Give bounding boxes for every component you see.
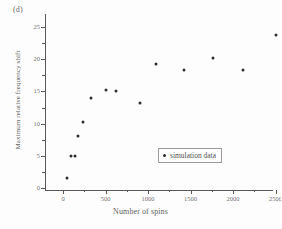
data-point xyxy=(138,101,141,104)
x-tick-minor xyxy=(254,190,255,192)
y-tick xyxy=(41,27,45,28)
legend-marker-icon xyxy=(163,154,166,157)
data-point xyxy=(242,69,245,72)
x-axis-title: Number of spins xyxy=(0,207,281,216)
data-point xyxy=(211,56,214,59)
plot-area: 051015202505001000150020002500 xyxy=(0,0,281,229)
x-tick-minor xyxy=(127,190,128,192)
x-tick-minor xyxy=(276,190,277,192)
y-tick xyxy=(41,156,45,157)
x-tick xyxy=(63,190,64,194)
x-tick-label: 2500 xyxy=(261,195,282,203)
data-point xyxy=(66,177,69,180)
y-tick-label: 25 xyxy=(16,23,40,30)
y-tick xyxy=(41,188,45,189)
y-tick-minor xyxy=(42,140,45,141)
x-tick-label: 500 xyxy=(91,195,121,203)
x-tick-minor xyxy=(84,190,85,192)
y-tick xyxy=(41,124,45,125)
y-axis-title: Maximum relative frequency shift xyxy=(14,30,22,170)
legend: simulation data xyxy=(158,148,222,163)
y-tick-minor xyxy=(42,43,45,44)
data-point xyxy=(81,121,84,124)
data-point xyxy=(69,154,72,157)
data-point xyxy=(90,96,93,99)
data-point xyxy=(274,33,277,36)
x-tick-label: 1000 xyxy=(133,195,163,203)
y-tick-label: 0 xyxy=(16,184,40,191)
data-point xyxy=(154,62,157,65)
x-axis-line xyxy=(45,190,273,191)
y-tick-minor xyxy=(42,75,45,76)
data-point xyxy=(77,135,80,138)
x-tick xyxy=(191,190,192,194)
y-tick xyxy=(41,59,45,60)
legend-label: simulation data xyxy=(170,151,216,160)
y-tick-minor xyxy=(42,108,45,109)
data-point xyxy=(114,89,117,92)
x-tick xyxy=(106,190,107,194)
data-point xyxy=(73,154,76,157)
figure-scatter-plot: (d) 051015202505001000150020002500 Maxim… xyxy=(0,0,281,229)
y-axis-line xyxy=(45,14,46,191)
x-tick-label: 1500 xyxy=(176,195,206,203)
data-point xyxy=(182,69,185,72)
x-tick xyxy=(148,190,149,194)
y-tick xyxy=(41,91,45,92)
x-tick-minor xyxy=(169,190,170,192)
x-tick-label: 2000 xyxy=(218,195,248,203)
x-tick-minor xyxy=(212,190,213,192)
x-tick xyxy=(233,190,234,194)
x-tick-label: 0 xyxy=(48,195,78,203)
data-point xyxy=(104,89,107,92)
y-tick-minor xyxy=(42,172,45,173)
